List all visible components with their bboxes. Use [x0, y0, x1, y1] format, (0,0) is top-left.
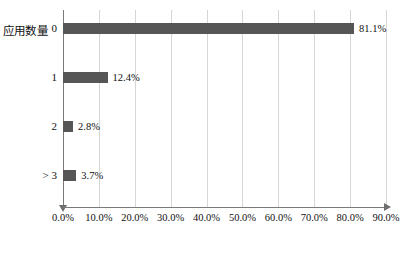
x-axis-arrow-icon	[384, 203, 391, 211]
bar-value-label: 2.8%	[78, 121, 100, 132]
category-label: 2	[1, 120, 57, 132]
gridline-90.0	[386, 10, 387, 207]
gridline-20.0	[135, 10, 136, 207]
gridline-40.0	[207, 10, 208, 207]
category-label: > 3	[1, 169, 57, 181]
x-axis-line	[63, 207, 385, 208]
bar-chart: 应用数量 0.0%10.0%20.0%30.0%40.0%50.0%60.0%7…	[0, 0, 411, 257]
bar-value-label: 81.1%	[359, 23, 386, 34]
bar	[63, 170, 76, 181]
gridline-80.0	[350, 10, 351, 207]
category-label: 0	[1, 22, 57, 34]
gridline-70.0	[314, 10, 315, 207]
category-label: 1	[1, 71, 57, 83]
bar	[63, 72, 108, 83]
bar	[63, 121, 73, 132]
gridline-50.0	[242, 10, 243, 207]
bar	[63, 23, 354, 34]
bar-value-label: 12.4%	[113, 72, 140, 83]
gridline-60.0	[278, 10, 279, 207]
x-tick-label: 90.0%	[356, 212, 411, 223]
gridline-30.0	[171, 10, 172, 207]
plot-area	[63, 10, 386, 207]
bar-value-label: 3.7%	[81, 170, 103, 181]
